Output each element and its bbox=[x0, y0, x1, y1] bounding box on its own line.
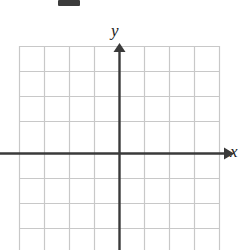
coordinate-grid-figure: y x bbox=[0, 0, 242, 250]
y-axis-label: y bbox=[111, 22, 119, 39]
grid-canvas bbox=[0, 0, 242, 250]
y-axis-arrowhead bbox=[114, 43, 126, 52]
y-axis bbox=[114, 43, 126, 250]
x-axis-label: x bbox=[230, 143, 238, 160]
x-axis bbox=[0, 148, 234, 160]
